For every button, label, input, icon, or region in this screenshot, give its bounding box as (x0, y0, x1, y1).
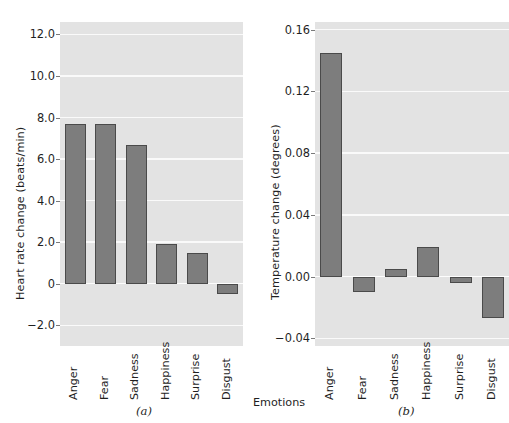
gridline (60, 200, 243, 201)
chart-panel-b: Temperature change (degrees) 0.160.120.0… (258, 0, 509, 423)
bar-surprise (187, 253, 208, 284)
y-axis-tick-label: 0.16 (285, 23, 310, 37)
plot-area-b (315, 22, 509, 346)
zero-gridline (60, 283, 243, 285)
gridline (60, 325, 243, 326)
x-axis-tick-label-fear: Fear (356, 376, 369, 400)
panel-caption-b: (b) (398, 404, 414, 418)
y-axis-tick-label: 0 (48, 277, 55, 291)
gridline (315, 338, 509, 339)
bar-surprise (450, 277, 472, 283)
y-axis-tick-label: 0.08 (285, 146, 310, 160)
x-axis-tick-label-sadness: Sadness (128, 353, 141, 400)
x-axis-tick-label-sadness: Sadness (388, 353, 401, 400)
x-axis-tick-label-disgust: Disgust (485, 358, 498, 400)
bar-sadness (126, 145, 147, 284)
x-axis-tick-label-happiness: Happiness (420, 342, 433, 400)
bar-disgust (482, 277, 504, 319)
y-axis-tick-label: 4.0 (37, 194, 55, 208)
y-axis-tick-label: 6.0 (37, 152, 55, 166)
y-axis-tick-label: 0.04 (285, 208, 310, 222)
y-axis-tick-label: 2.0 (37, 235, 55, 249)
gridline (60, 158, 243, 159)
plot-area-a (60, 22, 243, 346)
y-axis-title-a: Heart rate change (beats/min) (14, 127, 27, 300)
x-axis-tick-label-anger: Anger (323, 367, 336, 400)
bar-happiness (417, 247, 439, 276)
y-axis-tick-label: 8.0 (37, 111, 55, 125)
panel-caption-a: (a) (136, 404, 152, 418)
gridline (315, 214, 509, 215)
figure-root: Heart rate change (beats/min) 12.010.08.… (0, 0, 509, 423)
bar-disgust (217, 284, 238, 294)
y-axis-tick-label: 12.0 (30, 27, 55, 41)
bar-anger (320, 53, 342, 277)
x-axis-tick-label-fear: Fear (98, 376, 111, 400)
gridline (60, 241, 243, 242)
bar-anger (65, 124, 86, 284)
bar-happiness (156, 244, 177, 283)
gridline (315, 152, 509, 153)
y-axis-title-b: Temperature change (degrees) (269, 124, 282, 300)
x-axis-tick-label-disgust: Disgust (220, 358, 233, 400)
y-axis-tick-label: 0.12 (285, 84, 310, 98)
y-axis-tick-label: −2.0 (27, 318, 55, 332)
bar-sadness (385, 269, 407, 277)
bar-fear (95, 124, 116, 284)
zero-gridline (315, 276, 509, 278)
chart-panel-a: Heart rate change (beats/min) 12.010.08.… (0, 0, 258, 423)
x-axis-tick-label-surprise: Surprise (189, 354, 202, 400)
bar-fear (353, 277, 375, 292)
x-axis-tick-label-surprise: Surprise (453, 354, 466, 400)
gridline (315, 29, 509, 30)
gridline (60, 117, 243, 118)
x-axis-tick-label-happiness: Happiness (159, 342, 172, 400)
gridline (60, 75, 243, 76)
x-axis-title: Emotions (253, 396, 305, 409)
gridline (315, 91, 509, 92)
y-axis-tick-label: −0.04 (275, 331, 310, 345)
y-axis-tick-label: 0.00 (285, 270, 310, 284)
gridline (60, 34, 243, 35)
y-axis-tick-label: 10.0 (30, 69, 55, 83)
x-axis-tick-label-anger: Anger (67, 367, 80, 400)
